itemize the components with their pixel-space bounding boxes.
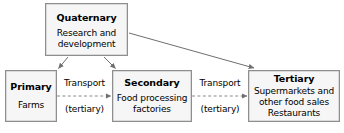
edge-label-tertiary-note-secondary-tertiary: (tertiary) [192, 104, 248, 114]
node-secondary[interactable]: Secondary Food processing factories [112, 70, 192, 122]
node-quaternary-desc-line-1: Research and [57, 28, 116, 39]
node-tertiary-desc-line-2: other food sales [254, 97, 334, 108]
node-quaternary-title: Quaternary [57, 12, 117, 24]
edge-label-tertiary-note-primary-secondary: (tertiary) [57, 104, 112, 114]
edge-label-transport-primary-secondary: Transport [57, 78, 112, 88]
arrow-quaternary-to-primary [59, 57, 69, 69]
node-secondary-description: Food processing factories [117, 93, 188, 115]
node-tertiary-desc-line-1: Supermarkets and [254, 86, 334, 97]
edge-label-transport-secondary-tertiary: Transport [192, 78, 248, 88]
node-tertiary[interactable]: Tertiary Supermarkets and other food sal… [248, 70, 340, 122]
node-quaternary-desc-line-2: development [57, 39, 116, 50]
node-secondary-title: Secondary [124, 77, 179, 89]
node-quaternary-description: Research and development [57, 28, 116, 50]
arrow-quaternary-to-tertiary [129, 33, 254, 68]
node-primary-description: Farms [18, 100, 44, 111]
node-secondary-desc-line-2: factories [117, 104, 188, 115]
node-tertiary-desc-line-3: Restaurants [254, 108, 334, 119]
node-secondary-desc-line-1: Food processing [117, 93, 188, 104]
arrow-quaternary-to-secondary [104, 57, 116, 69]
node-primary[interactable]: Primary Farms [5, 70, 57, 122]
node-tertiary-title: Tertiary [274, 73, 315, 85]
sector-flow-diagram: Quaternary Research and development Prim… [0, 0, 344, 133]
node-primary-title: Primary [10, 81, 51, 93]
node-primary-desc-line-1: Farms [18, 100, 44, 111]
node-quaternary[interactable]: Quaternary Research and development [45, 3, 128, 56]
node-tertiary-description: Supermarkets and other food sales Restau… [254, 86, 334, 119]
